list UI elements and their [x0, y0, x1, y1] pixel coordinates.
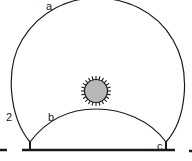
label-right-post: c: [157, 140, 163, 152]
label-outer-arc: a: [46, 0, 53, 12]
label-inner-arc: b: [48, 111, 54, 123]
outer-arc-a: [11, 0, 184, 142]
sun-disc: [85, 80, 108, 103]
sun-icon: [81, 76, 111, 106]
diagram-canvas: a 2 b c: [0, 0, 192, 161]
label-figure-number: 2: [6, 111, 12, 123]
